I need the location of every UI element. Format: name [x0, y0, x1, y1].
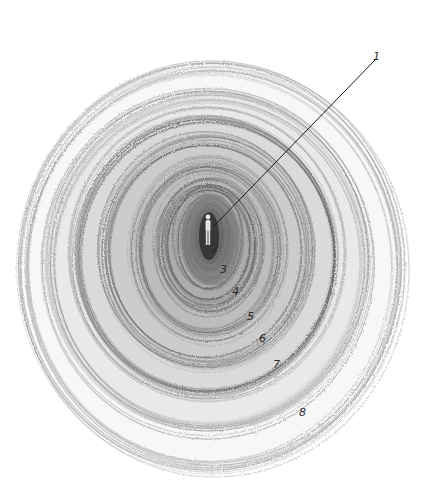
- ring-label-6: 6: [259, 332, 266, 345]
- ring-label-2: 2: [212, 242, 219, 255]
- rings-group: [17, 61, 410, 477]
- ring-label-1: 1: [373, 50, 380, 63]
- ring-label-4: 4: [232, 285, 239, 298]
- ring-label-8: 8: [299, 406, 306, 419]
- ring-label-7: 7: [273, 358, 280, 371]
- ring-label-3: 3: [220, 263, 227, 276]
- ring-label-5: 5: [247, 310, 254, 323]
